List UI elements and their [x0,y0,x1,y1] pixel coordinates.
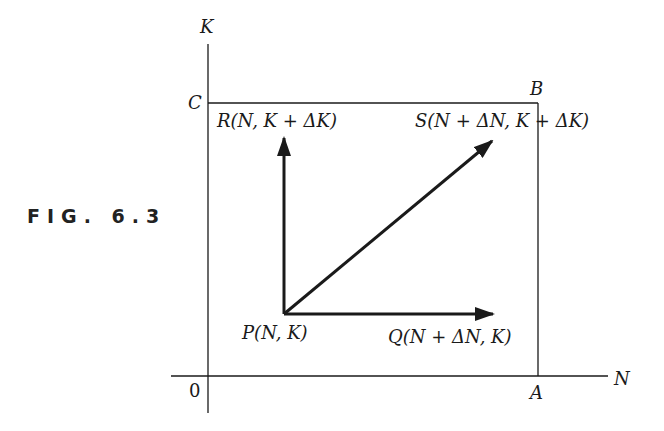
corner-c-label: C [188,92,202,113]
point-p-label: P(N, K) [241,322,308,343]
origin-label: 0 [189,380,200,401]
corner-a-label: A [528,382,543,403]
point-s-label: S(N + ΔN, K + ΔK) [415,110,589,131]
diagram-canvas: K N 0 C B A R(N, K + ΔK) S(N + ΔN, K + Δ… [0,0,664,431]
point-q-label: Q(N + ΔN, K) [388,326,512,347]
y-axis-label: K [199,16,215,37]
figure-caption: FIG. 6.3 [27,205,166,227]
corner-b-label: B [529,78,543,99]
point-r-label: R(N, K + ΔK) [216,110,337,131]
arrow-p-to-s [284,141,492,314]
x-axis-label: N [613,368,631,389]
